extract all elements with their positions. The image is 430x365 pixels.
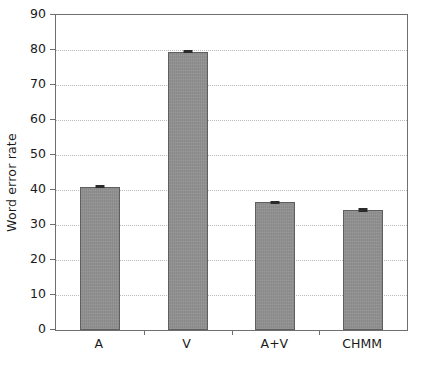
y-tick-label: 40 xyxy=(2,183,46,196)
bar-chart-figure: Word error rate 0102030405060708090 AVA+… xyxy=(0,0,430,365)
y-tick-mark xyxy=(50,189,56,190)
y-tick-mark xyxy=(50,294,56,295)
bar-column xyxy=(255,15,295,330)
y-tick-label: 90 xyxy=(2,8,46,21)
y-tick-mark xyxy=(50,224,56,225)
error-bar xyxy=(271,201,280,205)
y-tick-mark xyxy=(50,154,56,155)
y-tick-label: 80 xyxy=(2,43,46,56)
x-tick-label: CHMM xyxy=(342,338,382,351)
x-tick-mark xyxy=(232,330,233,335)
x-tick-label: A+V xyxy=(261,338,289,351)
y-tick-label: 20 xyxy=(2,253,46,266)
y-tick-label: 30 xyxy=(2,218,46,231)
bar-column xyxy=(343,15,383,330)
x-tick-label: V xyxy=(182,338,191,351)
y-tick-mark xyxy=(50,259,56,260)
bar-column xyxy=(80,15,120,330)
x-tick-mark xyxy=(319,330,320,335)
y-tick-mark xyxy=(50,119,56,120)
error-bar xyxy=(359,208,368,212)
y-tick-mark xyxy=(50,49,56,50)
plot-area xyxy=(55,14,408,331)
x-tick-label: A xyxy=(95,338,104,351)
error-bar xyxy=(183,50,192,53)
error-bar xyxy=(95,185,104,189)
y-tick-label: 70 xyxy=(2,78,46,91)
bar xyxy=(343,210,383,330)
y-tick-label: 50 xyxy=(2,148,46,161)
y-tick-label: 10 xyxy=(2,288,46,301)
x-tick-mark xyxy=(144,330,145,335)
y-tick-mark xyxy=(50,14,56,15)
y-tick-label: 0 xyxy=(2,323,46,336)
bar xyxy=(80,187,120,331)
bar-column xyxy=(168,15,208,330)
y-tick-mark xyxy=(50,329,56,330)
y-tick-label: 60 xyxy=(2,113,46,126)
y-tick-mark xyxy=(50,84,56,85)
bar xyxy=(168,52,208,330)
bar xyxy=(255,202,295,330)
